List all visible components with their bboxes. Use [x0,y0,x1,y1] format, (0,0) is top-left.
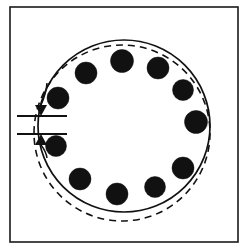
dot-10 [47,87,69,109]
dot-9 [46,136,67,157]
dot-11 [75,62,97,84]
dot-5 [172,157,194,179]
dot-1 [111,50,134,73]
dot-8 [69,168,91,190]
dot-7 [106,183,128,205]
dot-6 [145,177,166,198]
dot-4 [185,111,208,134]
figure-container [0,0,249,251]
technical-drawing-canvas [0,0,249,251]
dot-2 [147,57,169,79]
dot-3 [173,80,194,101]
